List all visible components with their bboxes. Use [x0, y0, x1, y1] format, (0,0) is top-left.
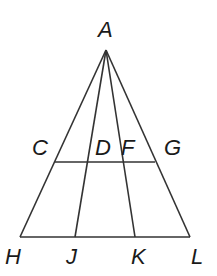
label-C: C: [32, 135, 48, 160]
label-A: A: [96, 17, 113, 42]
label-F: F: [121, 135, 136, 160]
triangle-diagram: A C D F G H J K L: [0, 0, 217, 276]
label-L: L: [191, 244, 203, 269]
label-J: J: [65, 244, 78, 269]
label-D: D: [95, 135, 111, 160]
label-H: H: [5, 244, 21, 269]
label-G: G: [164, 135, 181, 160]
label-K: K: [131, 244, 147, 269]
